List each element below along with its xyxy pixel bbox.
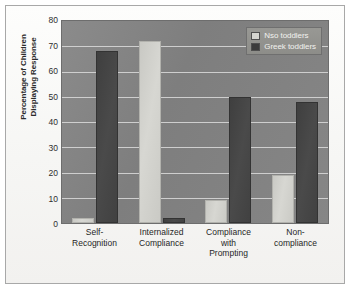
x-label-internalized-compliance: InternalizedCompliance bbox=[128, 227, 195, 259]
x-label-self-recognition: Self-Recognition bbox=[61, 227, 128, 259]
legend-item-greek-toddlers[interactable]: Greek toddlers bbox=[251, 42, 316, 51]
y-tick-80: 80 bbox=[36, 15, 58, 25]
legend-label-nso: Nso toddlers bbox=[264, 31, 308, 40]
x-label-compliance-with-prompting: CompliancewithPrompting bbox=[195, 227, 262, 259]
bar-nso-compliance-with-prompting[interactable] bbox=[205, 200, 227, 223]
y-tick-20: 20 bbox=[36, 168, 58, 178]
bar-nso-internalized-compliance[interactable] bbox=[139, 41, 161, 223]
bar-nso-non-compliance[interactable] bbox=[272, 175, 294, 223]
y-tick-60: 60 bbox=[36, 66, 58, 76]
x-label-non-compliance: Non-compliance bbox=[262, 227, 329, 259]
y-tick-10: 10 bbox=[36, 194, 58, 204]
x-axis-category-labels: Self-Recognition InternalizedCompliance … bbox=[61, 227, 329, 259]
bar-nso-self-recognition[interactable] bbox=[72, 218, 94, 223]
bar-group-internalized-compliance bbox=[129, 21, 196, 223]
y-axis-tick-labels: 80 70 60 50 40 30 20 10 0 bbox=[36, 20, 58, 224]
bar-greek-self-recognition[interactable] bbox=[96, 51, 118, 223]
legend-label-greek: Greek toddlers bbox=[264, 42, 316, 51]
legend-swatch-icon-nso bbox=[251, 32, 260, 40]
y-tick-0: 0 bbox=[36, 219, 58, 229]
figure-frame: Percentage of Children Displaying Respon… bbox=[5, 5, 345, 284]
y-tick-40: 40 bbox=[36, 117, 58, 127]
y-tick-30: 30 bbox=[36, 143, 58, 153]
legend-item-nso-toddlers[interactable]: Nso toddlers bbox=[251, 31, 316, 40]
figure-background: Percentage of Children Displaying Respon… bbox=[6, 6, 344, 283]
y-tick-50: 50 bbox=[36, 92, 58, 102]
bar-greek-compliance-with-prompting[interactable] bbox=[229, 97, 251, 223]
bar-greek-internalized-compliance[interactable] bbox=[163, 218, 185, 223]
plot-area: Nso toddlers Greek toddlers bbox=[61, 20, 329, 224]
chart-legend: Nso toddlers Greek toddlers bbox=[246, 27, 322, 55]
y-tick-70: 70 bbox=[36, 41, 58, 51]
y-axis-title-line-1: Percentage of Children bbox=[19, 34, 28, 119]
bar-group-self-recognition bbox=[62, 21, 129, 223]
legend-swatch-icon-greek bbox=[251, 43, 260, 51]
bar-greek-non-compliance[interactable] bbox=[296, 102, 318, 223]
